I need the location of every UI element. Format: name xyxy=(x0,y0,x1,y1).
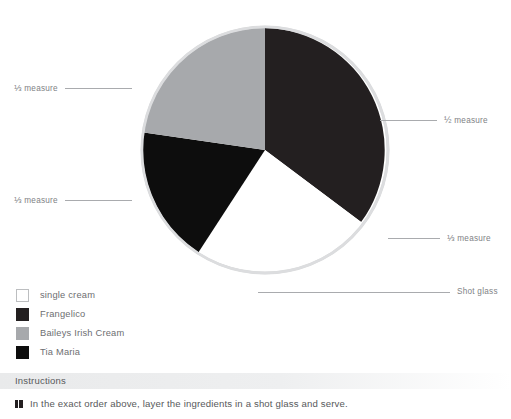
instructions-header-bar: Instructions xyxy=(0,373,511,389)
callout-baileys-fraction: ⅓ xyxy=(14,83,22,93)
leader-line-tia xyxy=(65,200,132,201)
instructions-section: Instructions In the exact order above, l… xyxy=(0,373,511,410)
legend-swatch-single-cream xyxy=(16,289,29,302)
callout-shot-glass: Shot glass xyxy=(258,288,498,296)
callout-single-cream: ⅓ measure xyxy=(388,234,491,243)
callout-tia-text: ⅓ measure xyxy=(14,196,58,205)
legend-item-frangelico: Frangelico xyxy=(16,305,216,324)
legend-swatch-frangelico xyxy=(16,308,29,321)
instructions-heading: Instructions xyxy=(15,376,66,386)
legend-label-frangelico: Frangelico xyxy=(40,310,85,319)
callout-cream-text: ⅓ measure xyxy=(447,234,491,243)
callout-shot-glass-text: Shot glass xyxy=(457,288,498,296)
legend-swatch-tia-maria xyxy=(16,346,29,359)
callout-baileys-unit: measure xyxy=(22,84,58,93)
legend-label-baileys-irish-cream: Baileys Irish Cream xyxy=(40,329,124,338)
leader-line-baileys xyxy=(65,88,132,89)
callout-frangelico-fraction: ½ xyxy=(444,115,452,125)
legend-label-single-cream: single cream xyxy=(40,291,95,300)
callout-frangelico-text: ½ measure xyxy=(444,116,488,125)
callout-frangelico: ½ measure xyxy=(380,116,488,125)
legend-label-tia-maria: Tia Maria xyxy=(40,348,80,357)
legend-item-tia-maria: Tia Maria xyxy=(16,343,216,362)
instruction-step-text: In the exact order above, layer the ingr… xyxy=(30,399,348,410)
callout-cream-unit: measure xyxy=(455,234,491,243)
pie-slice-baileys-irish-cream xyxy=(144,28,265,150)
callout-baileys-text: ⅓ measure xyxy=(14,84,58,93)
leader-line-cream xyxy=(388,238,440,239)
callout-baileys-irish-cream: ⅓ measure xyxy=(14,84,132,93)
callout-tia-fraction: ⅓ xyxy=(14,195,22,205)
legend-item-single-cream: single cream xyxy=(16,286,216,305)
pie-chart xyxy=(140,25,390,275)
leader-line-shot-glass xyxy=(258,292,450,293)
instruction-step: In the exact order above, layer the ingr… xyxy=(15,399,511,410)
instruction-bullet-icon xyxy=(15,400,23,408)
pie-chart-svg xyxy=(140,25,390,275)
callout-tia-maria: ⅓ measure xyxy=(14,196,132,205)
legend-swatch-baileys-irish-cream xyxy=(16,327,29,340)
chart-legend: single cream Frangelico Baileys Irish Cr… xyxy=(16,286,216,362)
legend-item-baileys-irish-cream: Baileys Irish Cream xyxy=(16,324,216,343)
callout-cream-fraction: ⅓ xyxy=(447,233,455,243)
callout-tia-unit: measure xyxy=(22,196,58,205)
callout-frangelico-unit: measure xyxy=(452,116,488,125)
leader-line-frangelico xyxy=(380,120,437,121)
